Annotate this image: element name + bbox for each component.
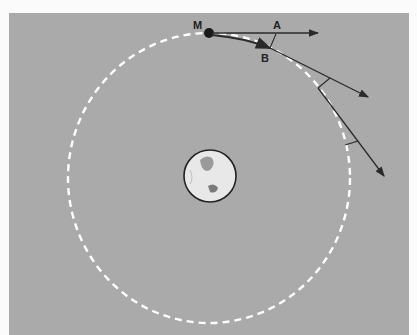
label-a: A	[273, 19, 281, 31]
fall-line-1	[270, 34, 276, 48]
tangent-arrow-3	[318, 88, 384, 176]
fall-line-2	[318, 78, 330, 88]
label-b: B	[261, 52, 269, 64]
orbit-diagram: M A B	[0, 0, 417, 335]
fall-line-3	[345, 141, 358, 145]
curved-path	[212, 35, 270, 48]
earth-icon	[184, 150, 236, 202]
label-m: M	[193, 19, 202, 31]
